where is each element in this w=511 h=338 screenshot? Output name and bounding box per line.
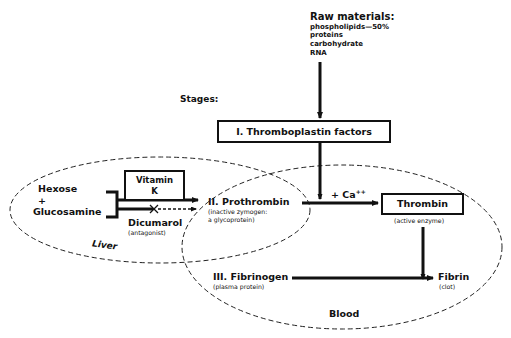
hexose-label: Hexose [38, 184, 77, 194]
stage1-thromboplastin-box: I. Thromboplastin factors [217, 120, 391, 143]
stage1-label: I. Thromboplastin factors [236, 127, 372, 137]
stage2-prothrombin-label: II. Prothrombin [208, 197, 289, 207]
precursor-bracket [106, 192, 117, 217]
raw-material-item: carbohydrate [310, 41, 363, 48]
fibrin-note: (clot) [439, 284, 455, 290]
thrombin-note: (active enzyme) [394, 218, 444, 224]
thrombin-box: Thrombin [381, 193, 464, 215]
vitamin-k-line1: Vitamin [136, 176, 173, 185]
raw-material-item: phospholipids—50% [310, 24, 389, 31]
raw-material-item: RNA [310, 50, 327, 57]
plus-sign: + [38, 196, 46, 206]
thrombin-label: Thrombin [397, 199, 448, 209]
blood-region-label: Blood [329, 309, 359, 319]
calcium-label: + Ca++ [331, 189, 366, 200]
prothrombin-note-line1: (inactive zymogen: [208, 209, 267, 215]
dicumarol-note: (antagonist) [128, 230, 166, 236]
glucosamine-label: Glucosamine [33, 207, 101, 217]
vitamin-k-line2: K [151, 187, 158, 196]
calcium-charge: ++ [356, 188, 366, 195]
fibrin-label: Fibrin [438, 272, 469, 282]
dicumarol-label: Dicumarol [128, 218, 182, 228]
stage3-fibrinogen-label: III. Fibrinogen [213, 272, 288, 282]
fibrinogen-note: (plasma protein) [213, 284, 264, 290]
raw-materials-title: Raw materials: [310, 12, 394, 22]
calcium-text: + Ca [331, 189, 356, 200]
stages-label: Stages: [180, 95, 218, 104]
prothrombin-note-line2: a glycoprotein) [208, 217, 255, 223]
raw-material-item: proteins [310, 32, 343, 39]
vitamin-k-box: Vitamin K [124, 170, 185, 201]
